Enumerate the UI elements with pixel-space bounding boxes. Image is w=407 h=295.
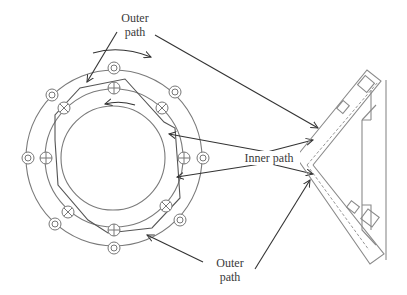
inner-path-leader-upper-left (169, 134, 267, 152)
inner-path-leader-lower-left (177, 163, 267, 177)
counterclockwise-rotation-arrow (105, 102, 135, 105)
flange-path-diagram (0, 0, 407, 295)
double-circle-icon (49, 218, 61, 230)
double-circle-icon (108, 242, 120, 254)
circle-cross-icon (62, 206, 74, 218)
welding-fixture (296, 70, 386, 264)
outer-path-top-leader-2 (155, 35, 318, 128)
circle-cross-icon (58, 102, 70, 114)
circle-plus-icon (108, 224, 120, 236)
outer-path-label-top-line2: path (112, 25, 158, 39)
inner-ring (61, 106, 165, 210)
outer-path-bottom-leader-2 (255, 180, 310, 269)
double-circle-icon (46, 89, 58, 101)
outer-path-label-top: Outer path (112, 11, 158, 39)
double-circle-icon (22, 152, 34, 164)
double-circle-icon (197, 152, 209, 164)
circle-plus-icon (108, 82, 120, 94)
double-circle-icon (108, 62, 120, 74)
circle-cross-icon (160, 200, 172, 212)
inner-path-label-text: Inner path (238, 151, 300, 165)
outer-path-label-bottom-line1: Outer (207, 256, 253, 270)
clockwise-rotation-arrow (93, 50, 151, 57)
circle-cross-icon (156, 102, 168, 114)
outer-path-label-bottom-line2: path (207, 270, 253, 284)
double-circle-icon (169, 86, 181, 98)
outer-path-label-top-line1: Outer (112, 11, 158, 25)
outer-path-label-bottom: Outer path (207, 256, 253, 284)
double-circle-icon (174, 214, 186, 226)
outer-path-bottom-leader-1 (147, 235, 203, 262)
outer-path-top-leader-1 (87, 32, 117, 82)
inner-bolt-symbols (40, 82, 190, 236)
circle-plus-icon (178, 152, 190, 164)
inner-path-label: Inner path (238, 151, 300, 165)
circle-plus-icon (40, 152, 52, 164)
